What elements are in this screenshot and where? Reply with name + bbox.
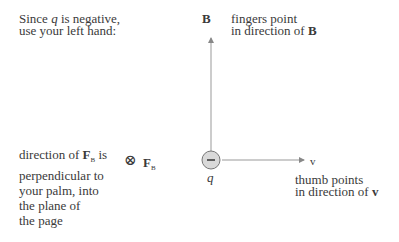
thumb-text: thumb points in direction of v — [295, 174, 378, 198]
force-direction-text: direction of FB is perpendicular to your… — [19, 147, 107, 228]
into-page-icon: ⊗ — [124, 154, 137, 166]
force-label: FB — [143, 157, 156, 174]
intro-text: Since q is negative, use your left hand: — [19, 13, 120, 37]
fingers-text: fingers point in direction of B — [231, 13, 317, 37]
v-axis-label: v — [310, 155, 316, 167]
charge-label: q — [207, 172, 214, 184]
b-axis-label: B — [202, 13, 211, 25]
